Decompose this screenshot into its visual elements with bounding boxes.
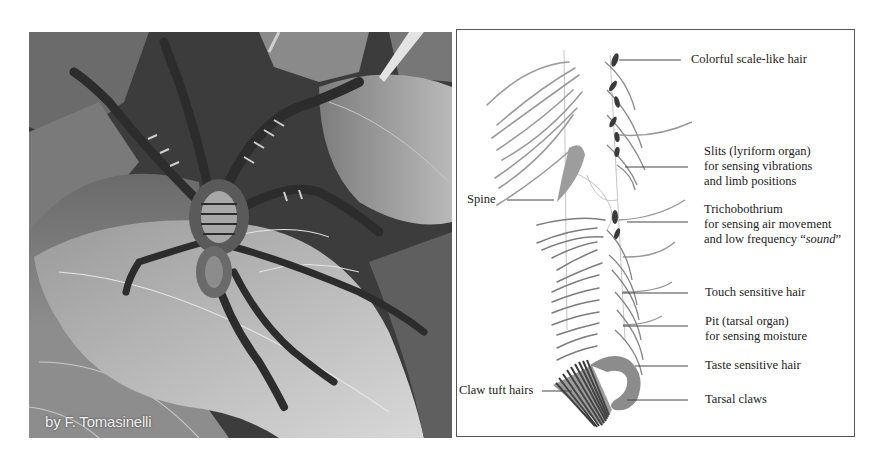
label-pit: Pit (tarsal organ) for sensing moisture [705,314,807,344]
label-spine: Spine [467,192,495,207]
label-claw-tuft: Claw tuft hairs [459,383,533,398]
label-text: and low frequency “ [704,232,806,246]
label-tarsal-claws: Tarsal claws [705,392,767,407]
label-pit-line1: Pit (tarsal organ) [705,314,807,329]
photo-credit: by F. Tomasinelli [45,413,151,430]
label-touch-hair: Touch sensitive hair [705,285,806,300]
label-scale-hair: Colorful scale-like hair [691,52,807,67]
label-pit-line2: for sensing moisture [705,329,807,344]
label-slits: Slits (lyriform organ) for sensing vibra… [704,144,812,189]
label-trichobothrium-line3: and low frequency “sound” [704,232,841,247]
label-trichobothrium-line1: Trichobothrium [704,202,841,217]
label-taste-hair: Taste sensitive hair [705,358,801,373]
label-sound-italic: sound [806,232,836,246]
label-text: ” [836,232,842,246]
spider-photo-art [29,32,452,438]
leg-diagram: Colorful scale-like hair Slits (lyriform… [456,29,855,437]
label-slits-line3: and limb positions [704,174,812,189]
label-trichobothrium: Trichobothrium for sensing air movement … [704,202,841,247]
spider-photo: by F. Tomasinelli [29,32,452,438]
label-trichobothrium-line2: for sensing air movement [704,217,841,232]
label-slits-line2: for sensing vibrations [704,159,812,174]
label-slits-line1: Slits (lyriform organ) [704,144,812,159]
